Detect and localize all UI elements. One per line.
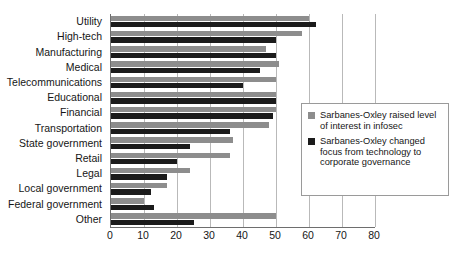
category-label: High-tech [0, 31, 102, 41]
category-label: Manufacturing [0, 47, 102, 57]
bar-segment [111, 113, 273, 118]
bar-segment [111, 92, 276, 97]
bar-segment [111, 220, 194, 225]
category-label: Retail [0, 153, 102, 163]
bar-chart: UtilityHigh-techManufacturingMedicalTele… [0, 0, 460, 261]
bar-segment [111, 213, 276, 218]
category-label: Transportation [0, 123, 102, 133]
x-tick-label: 10 [137, 229, 149, 241]
legend-item: Sarbanes-Oxley raised level of interest … [308, 110, 443, 131]
legend-swatch-icon [308, 138, 315, 145]
bar-segment [111, 122, 269, 127]
bar-segment [111, 144, 190, 149]
bar-segment [111, 22, 316, 27]
bar-segment [111, 16, 309, 21]
category-label: Educational [0, 92, 102, 102]
category-label: Telecommunications [0, 77, 102, 87]
chart-legend: Sarbanes-Oxley raised level of interest … [301, 103, 449, 196]
bar-row [111, 14, 375, 29]
bar-segment [111, 205, 154, 210]
category-label: Financial [0, 107, 102, 117]
x-tick-label: 0 [107, 229, 113, 241]
category-label: State government [0, 138, 102, 148]
x-tick-label: 70 [335, 229, 347, 241]
bar-segment [111, 61, 279, 66]
category-label: Local government [0, 183, 102, 193]
bar-row [111, 197, 375, 212]
bar-row [111, 60, 375, 75]
bar-row [111, 29, 375, 44]
bar-segment [111, 153, 230, 158]
bar-segment [111, 129, 230, 134]
x-tick-label: 20 [170, 229, 182, 241]
legend-label: Sarbanes-Oxley changed focus from techno… [320, 136, 443, 168]
bar-row [111, 44, 375, 59]
bar-segment [111, 189, 151, 194]
x-tick-label: 50 [269, 229, 281, 241]
category-label: Legal [0, 168, 102, 178]
bar-segment [111, 107, 276, 112]
bar-segment [111, 37, 276, 42]
bar-segment [111, 198, 144, 203]
bar-segment [111, 174, 167, 179]
bar-segment [111, 183, 167, 188]
bar-row [111, 212, 375, 227]
x-axis-ticks: 01020304050607080 [110, 229, 374, 245]
bar-segment [111, 77, 276, 82]
bar-segment [111, 31, 302, 36]
bar-segment [111, 68, 260, 73]
bar-segment [111, 46, 266, 51]
legend-item: Sarbanes-Oxley changed focus from techno… [308, 136, 443, 168]
bar-segment [111, 159, 177, 164]
legend-label: Sarbanes-Oxley raised level of interest … [320, 110, 443, 131]
bar-segment [111, 168, 190, 173]
category-label: Medical [0, 62, 102, 72]
legend-swatch-icon [308, 112, 315, 119]
x-tick-label: 60 [302, 229, 314, 241]
category-label: Other [0, 214, 102, 224]
bar-segment [111, 137, 233, 142]
category-label: Federal government [0, 199, 102, 209]
category-axis: UtilityHigh-techManufacturingMedicalTele… [0, 14, 106, 227]
x-tick-label: 30 [203, 229, 215, 241]
bar-segment [111, 53, 276, 58]
bar-segment [111, 98, 276, 103]
bar-segment [111, 83, 243, 88]
x-tick-label: 40 [236, 229, 248, 241]
category-label: Utility [0, 16, 102, 26]
x-tick-label: 80 [368, 229, 380, 241]
bar-row [111, 75, 375, 90]
